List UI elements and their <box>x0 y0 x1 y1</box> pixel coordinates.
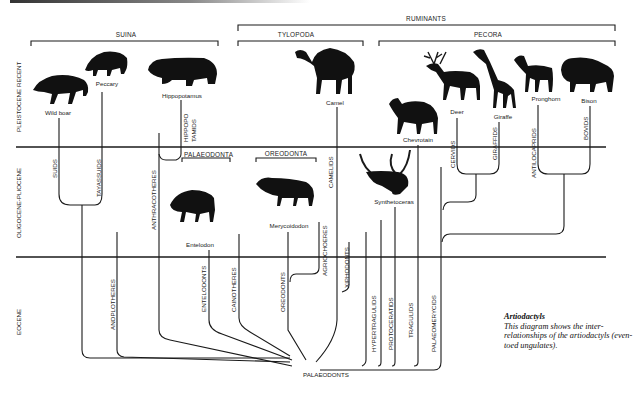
pecora-bracket <box>379 41 615 46</box>
antilocaprid-bovid-stem <box>442 174 564 242</box>
lineage-anthracotheres: ANTHRACOTHERES <box>150 170 157 230</box>
animal-label-bison: Bison <box>581 97 597 104</box>
lineage-cervids: CERVIDS <box>449 141 456 168</box>
clade-tylopoda: TYLOPODA <box>278 31 315 38</box>
deer-silhouette <box>424 52 480 100</box>
tylopoda-bracket <box>238 41 363 46</box>
animal-label-synthetoceras: Synthetoceras <box>374 198 414 205</box>
clade-ruminants: RUMINANTS <box>406 15 446 22</box>
hypertragulids-line <box>362 232 366 366</box>
protoceratids-line <box>378 220 381 366</box>
animal-label-giraffe: Giraffe <box>494 113 513 120</box>
animal-label-camel: Camel <box>326 99 344 106</box>
cervid-giraffid-stem <box>443 174 476 210</box>
chevrotain-silhouette <box>389 98 438 134</box>
lineage-bovids: BOVIDS <box>582 117 589 140</box>
merycoidodon-silhouette <box>256 178 314 206</box>
epoch-label-pleistocene: PLEISTOCENE RECENT <box>15 61 22 132</box>
lineage-giraffids: GIRAFFIDS <box>491 127 498 160</box>
lineage-suids: SUIDS <box>51 159 58 178</box>
palaeodonta-bracket <box>182 158 230 162</box>
synthetoceras-silhouette <box>360 150 410 195</box>
tragulids-line <box>414 145 418 366</box>
clade-suina: SUINA <box>116 31 137 38</box>
hippo-branch <box>159 100 181 160</box>
lineage-hippopotamids-1: HIPPOPO <box>182 114 189 142</box>
animal-label-entelodon: Entelodon <box>186 241 214 248</box>
animal-label-merycoidodon: Merycoidodon <box>270 222 309 229</box>
lineage-anoplotheres: ANOPLOTHERES <box>109 279 116 330</box>
camel-silhouette <box>295 48 355 94</box>
lineage-protoceratids: PROTOCERATIDS <box>387 297 394 350</box>
lineage-tragulids: TRAGULIDS <box>407 303 414 338</box>
lineage-hippopotamids-2: TAMIDS <box>190 119 197 142</box>
epoch-label-eocene: EOCENE <box>15 309 22 335</box>
lineage-agriochoeres: AGRIOCHOERES <box>321 225 328 276</box>
caption-text: This diagram shows the inter-relationshi… <box>504 322 639 351</box>
animal-label-peccary: Peccary <box>96 80 119 87</box>
lineage-entelodonts: ENTELODONTS <box>200 266 207 312</box>
wild-boar-silhouette <box>33 75 88 104</box>
animal-label-chevrotain: Chevrotain <box>403 136 433 143</box>
lineage-oreodonts: OREODONTS <box>279 272 286 312</box>
lineage-camelids: CAMELIDS <box>327 156 334 188</box>
suina-bracket <box>31 41 218 46</box>
pronghorn-silhouette <box>514 56 553 93</box>
peccary-silhouette <box>85 52 127 76</box>
hippopotamus-silhouette <box>148 58 217 86</box>
animal-label-deer: Deer <box>450 108 463 115</box>
oreodonts-line <box>288 232 306 360</box>
agriochoeres-line <box>290 222 319 282</box>
lineage-tayassuids: TAYASSUIDS <box>95 159 102 197</box>
clade-pecora: PECORA <box>474 31 503 38</box>
lineage-antilocaprids: ANTILOCAPRIDS <box>530 128 537 178</box>
lineage-xiphodonts: XIPHODONTS <box>343 247 350 288</box>
clade-palaeodonta: PALAEODONTA <box>184 151 234 158</box>
caption-block: Artiodactyls This diagram shows the inte… <box>504 312 639 350</box>
animal-label-pronghorn: Pronghorn <box>532 95 561 102</box>
bison-silhouette <box>561 58 614 92</box>
lineage-hypertragulids: HYPERTRAGULIDS <box>370 295 377 352</box>
animal-label-hippopotamus: Hippopotamus <box>162 92 202 99</box>
lineage-cainotheres: CAINOTHERES <box>230 267 237 312</box>
epoch-label-oligocene-pliocene: OLIGOCENE-PLIOCENE <box>15 168 22 238</box>
lineage-palaeomerycids: PALAEOMERYCIDS <box>430 295 437 352</box>
anthracotheres-line <box>159 133 292 366</box>
animal-label-wild-boar: Wild boar <box>45 109 71 116</box>
entelodon-silhouette <box>170 190 215 222</box>
root-label-palaeodonts: PALAEODONTS <box>303 371 349 378</box>
caption-title: Artiodactyls <box>504 312 639 322</box>
oreodonta-bracket <box>256 158 316 162</box>
clade-oreodonta: OREODONTA <box>265 150 308 157</box>
